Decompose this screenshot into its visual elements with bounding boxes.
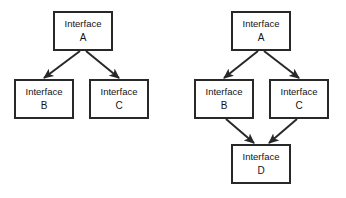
diagram-canvas: InterfaceAInterfaceBInterfaceCInterfaceA… (0, 0, 346, 198)
node-label-line1: Interface (206, 86, 243, 97)
node-label-line2: C (295, 100, 302, 111)
nodes-layer: InterfaceAInterfaceBInterfaceCInterfaceA… (15, 12, 328, 183)
node-label-line1: Interface (65, 18, 102, 29)
node-label-line2: A (80, 32, 87, 43)
node-label-line2: B (221, 100, 228, 111)
node-label-line1: Interface (243, 18, 280, 29)
node-interface-b[interactable]: InterfaceB (195, 80, 253, 118)
node-label-line1: Interface (26, 86, 63, 97)
node-interface-a[interactable]: InterfaceA (54, 12, 112, 50)
node-label-line1: Interface (243, 151, 280, 162)
node-label-line2: B (41, 100, 48, 111)
arrow-a-to-c (264, 51, 299, 78)
arrow-c-to-d (269, 119, 297, 143)
node-label-line2: D (257, 165, 264, 176)
node-interface-c[interactable]: InterfaceC (90, 80, 148, 118)
node-interface-c[interactable]: InterfaceC (270, 80, 328, 118)
node-interface-b[interactable]: InterfaceB (15, 80, 73, 118)
node-label-line2: C (115, 100, 122, 111)
arrow-a-to-b (224, 51, 258, 78)
node-label-line2: A (258, 32, 265, 43)
node-interface-a[interactable]: InterfaceA (232, 12, 290, 50)
arrow-a-to-c (86, 51, 119, 78)
edges-layer (44, 51, 299, 143)
arrow-b-to-d (226, 119, 254, 143)
arrow-a-to-b (44, 51, 80, 78)
interface-hierarchy-diagram: InterfaceAInterfaceBInterfaceCInterfaceA… (0, 0, 346, 198)
node-label-line1: Interface (101, 86, 138, 97)
node-interface-d[interactable]: InterfaceD (232, 145, 290, 183)
node-label-line1: Interface (281, 86, 318, 97)
